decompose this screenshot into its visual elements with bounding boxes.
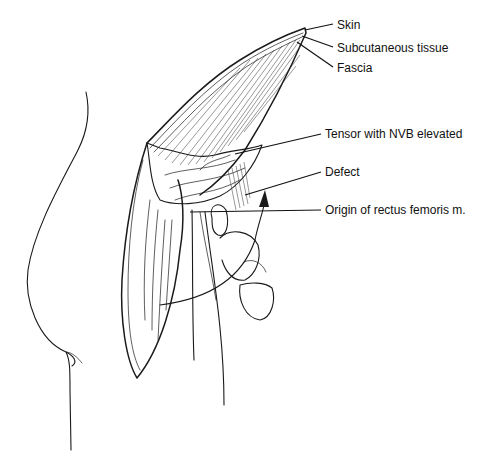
arrowhead xyxy=(259,190,269,207)
retracted-muscle xyxy=(220,232,259,280)
thigh-line-b xyxy=(205,212,224,405)
label-defect: Defect xyxy=(325,165,360,179)
defect-hatching xyxy=(228,162,250,210)
rectus-origin xyxy=(211,205,227,236)
label-tensor-nvb: Tensor with NVB elevated xyxy=(325,127,462,141)
thigh-line-a xyxy=(192,210,194,360)
label-fascia: Fascia xyxy=(337,61,372,75)
body-outline xyxy=(27,92,88,450)
line-drawing xyxy=(0,0,481,473)
label-origin-rectus-femoris: Origin of rectus femoris m. xyxy=(325,203,466,217)
anatomical-illustration: Skin Subcutaneous tissue Fascia Tensor w… xyxy=(0,0,481,473)
label-subcutaneous-tissue: Subcutaneous tissue xyxy=(337,41,448,55)
flap-hatching xyxy=(158,40,302,165)
label-skin: Skin xyxy=(337,18,360,32)
